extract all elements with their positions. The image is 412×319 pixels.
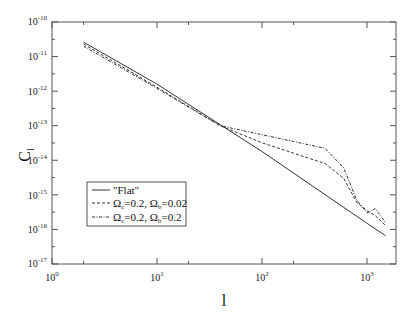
axis-ticks [52, 22, 396, 264]
y-tick-labels: 10-10 10-11 10-12 10-13 10-14 10-15 10-1… [28, 14, 48, 269]
x-tick-label: 101 [150, 270, 164, 283]
y-tick-label: 10-10 [28, 14, 48, 27]
x-tick-label: 100 [45, 270, 59, 283]
plot-frame [52, 22, 396, 264]
x-tick-labels: 100 101 102 103 [45, 270, 374, 283]
y-tick-label: 10-15 [28, 188, 48, 201]
x-tick-label: 103 [360, 270, 374, 283]
y-tick-label: 10-12 [28, 84, 48, 97]
y-tick-label: 10-11 [28, 49, 48, 62]
legend: "Flat" Ωc=0.2, Ωb=0.02 Ωc=0.2, Ωb=0.2 [87, 182, 187, 226]
legend-label: Ωc=0.2, Ωb=0.02 [113, 197, 187, 211]
y-tick-label: 10-16 [28, 222, 48, 235]
y-tick-label: 10-13 [28, 118, 48, 131]
x-axis-title: l [222, 292, 227, 309]
legend-label: "Flat" [113, 184, 139, 196]
y-tick-label: 10-17 [28, 256, 48, 269]
x-tick-label: 102 [255, 270, 269, 283]
chart: 10-10 10-11 10-12 10-13 10-14 10-15 10-1… [0, 0, 412, 319]
